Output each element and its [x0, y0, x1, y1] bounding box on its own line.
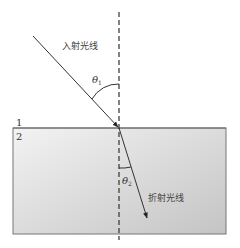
medium-2-label: 2	[16, 131, 22, 142]
angle-1-arc	[92, 84, 119, 99]
refraction-diagram: 入射光线 折射光线 1 2 θ1 θ2	[0, 0, 240, 248]
angle-incidence-label: θ1	[92, 74, 102, 86]
incident-ray-label: 入射光线	[62, 40, 98, 51]
refracted-ray-label: 折射光线	[148, 192, 184, 203]
medium-1-label: 1	[16, 117, 22, 128]
